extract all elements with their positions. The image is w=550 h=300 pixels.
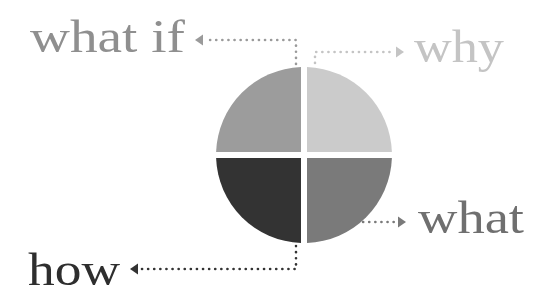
arrowhead-right-icon <box>396 47 404 58</box>
label-how: how <box>28 244 121 295</box>
arrowhead-right-icon <box>398 217 406 228</box>
quadrant-diagram: what if why what how <box>0 0 550 300</box>
quadrant-how <box>216 158 301 243</box>
quadrant-why <box>307 67 392 152</box>
quadrant-circle <box>216 67 392 243</box>
quadrant-what <box>307 158 392 243</box>
quadrant-what-if <box>216 67 301 152</box>
label-why: why <box>414 21 504 72</box>
label-what: what <box>418 192 524 243</box>
label-what-if: what if <box>30 11 186 62</box>
connector-how <box>130 246 296 275</box>
arrowhead-left-icon <box>195 35 203 46</box>
connector-why <box>315 47 404 64</box>
arrowhead-left-icon <box>130 264 138 275</box>
connector-what-if <box>195 35 296 65</box>
